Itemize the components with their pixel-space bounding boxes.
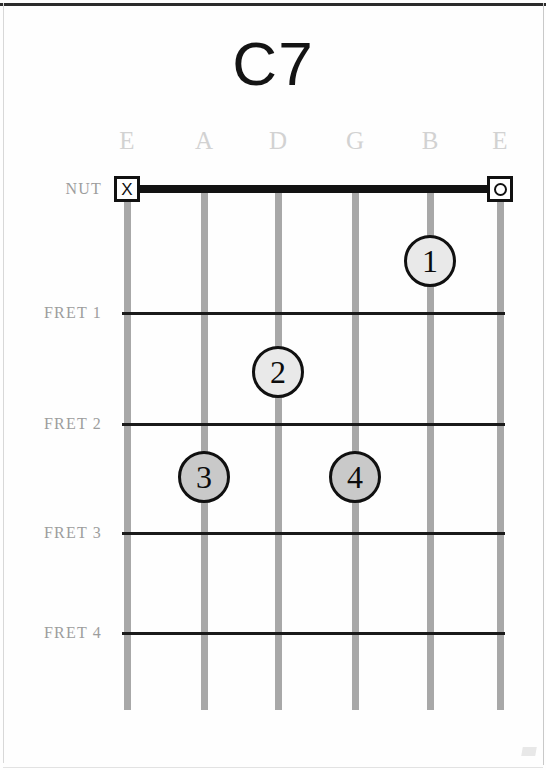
- open-circle-icon: [494, 183, 507, 196]
- string-label-4: B: [410, 128, 450, 153]
- finger-number-label: 2: [270, 356, 286, 388]
- page-border-bottom: [3, 767, 543, 768]
- fret-line-2: [122, 423, 505, 426]
- page-border-right: [543, 3, 544, 765]
- finger-number-label: 1: [422, 245, 438, 277]
- chord-diagram-sheet: C7 EADGBE NUTFRET 1FRET 2FRET 3FRET 4 X …: [0, 0, 546, 770]
- page-border-left: [3, 3, 4, 763]
- finger-number-label: 4: [347, 461, 363, 493]
- fret-label-3: FRET 3: [10, 525, 102, 541]
- fret-label-2: FRET 2: [10, 416, 102, 432]
- fret-label-4: FRET 4: [10, 625, 102, 641]
- finger-number-label: 3: [196, 461, 212, 493]
- finger-dot-1: 1: [404, 235, 456, 287]
- fret-label-1: FRET 1: [10, 305, 102, 321]
- finger-dot-4: 4: [329, 451, 381, 503]
- fret-line-4: [122, 632, 505, 635]
- finger-dot-2: 2: [252, 346, 304, 398]
- fret-line-3: [122, 532, 505, 535]
- string-label-2: D: [258, 128, 298, 153]
- nut-bar: [115, 185, 513, 193]
- chord-name-title: C7: [0, 33, 546, 95]
- string-label-3: G: [335, 128, 375, 153]
- string-label-0: E: [107, 128, 147, 153]
- string-label-1: A: [184, 128, 224, 153]
- nut-label: NUT: [10, 181, 102, 197]
- page-border-top: [0, 3, 546, 6]
- muted-string-marker: X: [114, 176, 140, 202]
- string-label-5: E: [480, 128, 520, 153]
- mute-x-icon: X: [121, 181, 132, 198]
- page-corner-artifact: [521, 747, 537, 756]
- open-string-marker: [487, 176, 513, 202]
- finger-dot-3: 3: [178, 451, 230, 503]
- fret-line-1: [122, 312, 505, 315]
